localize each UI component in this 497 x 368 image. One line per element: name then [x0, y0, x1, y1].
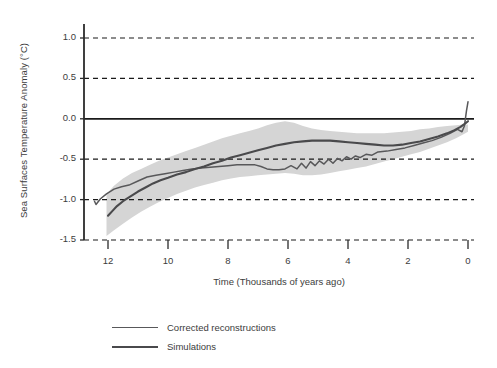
y-tick-label: 1.0 — [48, 31, 76, 42]
legend-item-simulations: Simulations — [112, 337, 372, 356]
y-tick-label: -1.5 — [48, 233, 76, 244]
x-tick-label: 0 — [456, 255, 480, 266]
x-tick-label: 12 — [96, 255, 120, 266]
y-tick-label: 0.0 — [48, 112, 76, 123]
x-tick-label: 6 — [276, 255, 300, 266]
y-tick-label: -0.5 — [48, 152, 76, 163]
chart-legend: Corrected reconstructions Simulations — [112, 318, 372, 356]
legend-swatch-simulations — [112, 346, 158, 348]
chart-figure: Sea Surfaces Temperature Anomaly (°C) Ti… — [0, 0, 497, 368]
legend-label-corrected-reconstructions: Corrected reconstructions — [167, 322, 276, 333]
uncertainty-band — [107, 121, 469, 236]
x-tick-label: 2 — [396, 255, 420, 266]
y-tick-label: 0.5 — [48, 71, 76, 82]
y-tick-label: -1.0 — [48, 193, 76, 204]
chart-plot-area — [0, 0, 497, 368]
legend-swatch-corrected-reconstructions — [112, 327, 158, 328]
x-axis-label: Time (Thousands of years ago) — [84, 276, 474, 287]
legend-item-corrected-reconstructions: Corrected reconstructions — [112, 318, 372, 337]
x-tick-label: 8 — [216, 255, 240, 266]
x-tick-label: 4 — [336, 255, 360, 266]
x-tick-label: 10 — [156, 255, 180, 266]
legend-label-simulations: Simulations — [167, 341, 216, 352]
